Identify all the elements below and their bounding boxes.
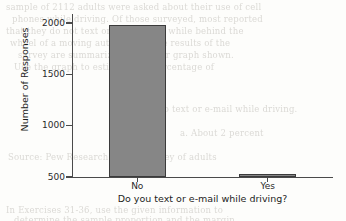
y-axis-tick-label: 1000 [42, 121, 65, 130]
bar-chart: 500100015002000 NoYes Do you text or e-m… [0, 0, 346, 221]
y-axis-tick [66, 74, 72, 75]
x-axis-line [72, 177, 333, 178]
y-axis-tick [66, 125, 72, 126]
x-axis-title: Do you text or e-mail while driving? [72, 193, 333, 204]
y-axis-tick-label: 500 [48, 173, 65, 182]
y-axis-title: Number of Responses [19, 10, 30, 150]
bar-yes [239, 174, 296, 177]
x-axis-category-label: No [107, 181, 167, 192]
y-axis-tick [66, 22, 72, 23]
y-axis-tick-label: 1500 [42, 70, 65, 79]
bar-no [109, 25, 166, 177]
x-axis-category-label: Yes [238, 181, 298, 192]
y-axis-tick-label: 2000 [42, 19, 65, 28]
y-axis-tick [66, 176, 72, 177]
y-axis-line [72, 14, 73, 178]
